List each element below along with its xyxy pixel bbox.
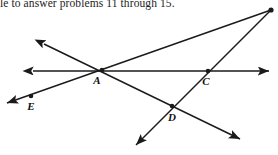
point-marker-v <box>268 7 273 12</box>
line-through-A-and-D <box>44 44 240 139</box>
line-through-vertex-A-E <box>7 10 271 103</box>
screenshot-root: le to answer problems 11 through 15. ACD… <box>0 0 278 155</box>
point-marker-c <box>206 69 211 74</box>
point-label-e: E <box>26 100 34 112</box>
point-marker-a <box>100 68 105 73</box>
lines-group <box>7 10 271 145</box>
point-label-c: C <box>202 75 210 87</box>
point-marker-e <box>29 94 34 99</box>
geometry-diagram: ACDE <box>0 0 278 155</box>
point-label-a: A <box>92 74 100 86</box>
point-label-d: D <box>167 111 176 123</box>
point-marker-d <box>170 104 175 109</box>
